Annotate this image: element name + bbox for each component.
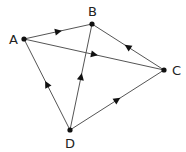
node-C [161,67,166,72]
node-label-D: D [65,136,75,151]
node-label-A: A [9,32,18,47]
edges [24,24,164,130]
arrow-icon [54,27,62,35]
arrow-icon [42,79,51,88]
node-label-B: B [88,4,97,19]
arrow-icon [90,50,98,58]
node-label-C: C [172,63,181,78]
arrowheads [42,27,132,104]
node-D [67,127,72,132]
node-A [21,36,26,41]
node-B [89,21,94,26]
arrow-icon [123,42,133,52]
arrow-icon [77,72,85,80]
graph-canvas: ABCD [0,0,186,152]
arrow-icon [113,95,123,105]
